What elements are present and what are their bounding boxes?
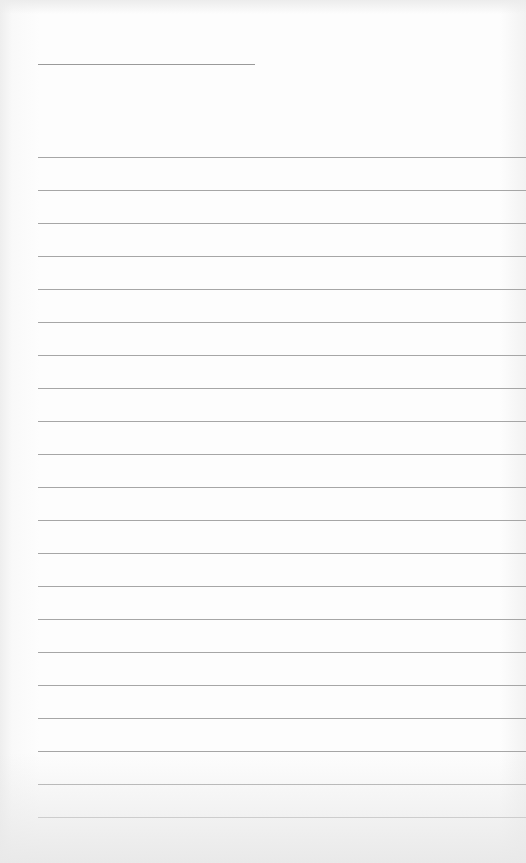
ruled-line (38, 190, 526, 191)
ruled-line (38, 256, 526, 257)
ruled-line (38, 322, 526, 323)
ruled-line (38, 652, 526, 653)
ruled-line (38, 223, 526, 224)
ruled-line (38, 355, 526, 356)
ruled-line (38, 553, 526, 554)
ruled-line (38, 487, 526, 488)
ruled-line (38, 586, 526, 587)
ruled-line (38, 520, 526, 521)
bottom-shadow (0, 753, 526, 863)
ruled-line (38, 454, 526, 455)
lined-paper-sheet (0, 0, 526, 863)
ruled-line (38, 619, 526, 620)
title-line (38, 64, 255, 65)
ruled-line (38, 685, 526, 686)
ruled-line (38, 289, 526, 290)
ruled-line (38, 388, 526, 389)
ruled-line (38, 718, 526, 719)
top-shadow (0, 0, 526, 14)
ruled-line (38, 421, 526, 422)
ruled-line (38, 751, 526, 752)
ruled-line (38, 157, 526, 158)
